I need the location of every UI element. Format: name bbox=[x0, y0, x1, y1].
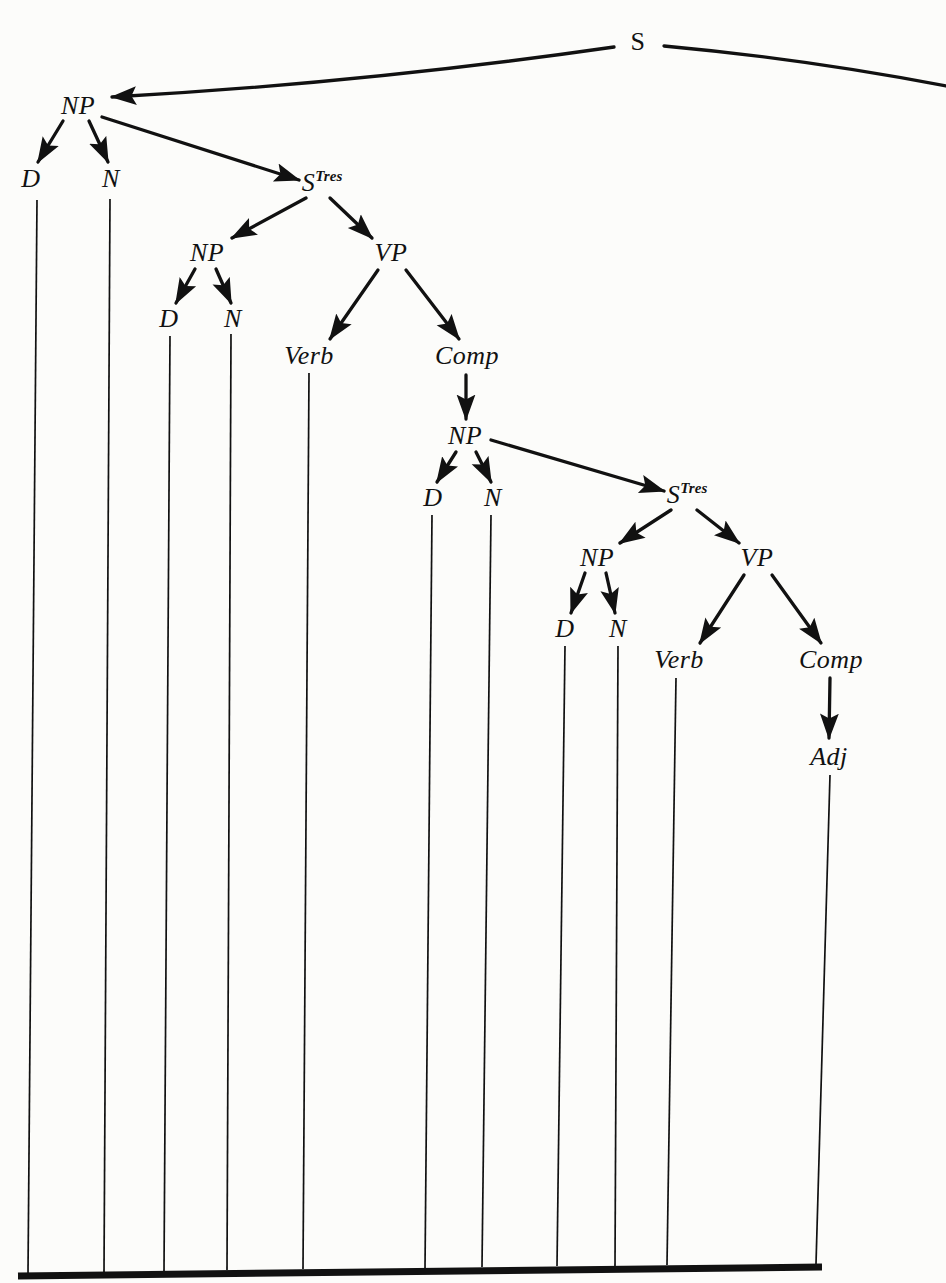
node-label-text: N bbox=[102, 164, 120, 193]
node-label-text: N bbox=[224, 304, 242, 333]
tree-node-n-3: N bbox=[484, 485, 502, 511]
node-label-text: S bbox=[667, 480, 681, 509]
tree-node-verb-1: Verb bbox=[284, 343, 334, 369]
node-label-text: D bbox=[21, 164, 40, 193]
leaf-line bbox=[164, 336, 170, 1271]
tree-node-np-2: NP bbox=[190, 240, 224, 266]
leaf-line bbox=[816, 775, 830, 1264]
tree-node-d-4: D bbox=[555, 616, 574, 642]
tree-arrow bbox=[216, 269, 231, 303]
tree-node-comp-2: Comp bbox=[799, 647, 863, 673]
tree-node-s-root: S bbox=[631, 29, 646, 55]
leaf-line bbox=[667, 678, 676, 1265]
tree-arrow bbox=[476, 452, 491, 482]
tree-node-d-2: D bbox=[159, 306, 178, 332]
tree-arrow bbox=[700, 575, 744, 643]
node-superscript: Tres bbox=[315, 168, 342, 184]
tree-arrow bbox=[176, 269, 195, 303]
node-label-text: S bbox=[631, 27, 646, 56]
leaf-line bbox=[482, 515, 491, 1267]
tree-node-np-4: NP bbox=[580, 545, 614, 571]
tree-node-n-2: N bbox=[224, 306, 242, 332]
tree-node-verb-2: Verb bbox=[654, 647, 704, 673]
tree-arrow bbox=[664, 46, 946, 86]
node-label-text: Comp bbox=[435, 341, 499, 370]
terminal-baseline bbox=[18, 1267, 822, 1276]
leaf-line bbox=[28, 200, 37, 1274]
tree-arrow bbox=[102, 117, 299, 180]
node-label-text: Verb bbox=[284, 341, 334, 370]
tree-arrow bbox=[330, 270, 378, 339]
tree-edges-layer bbox=[0, 0, 946, 1283]
tree-node-stres-2: STres bbox=[667, 482, 708, 508]
tree-arrow bbox=[772, 575, 821, 643]
node-label-text: VP bbox=[741, 543, 774, 572]
tree-node-n-1: N bbox=[102, 166, 120, 192]
tree-arrow bbox=[112, 47, 614, 97]
tree-arrow bbox=[606, 573, 615, 613]
node-label-text: S bbox=[302, 168, 316, 197]
node-label-text: Comp bbox=[799, 645, 863, 674]
tree-node-vp-2: VP bbox=[741, 545, 774, 571]
node-superscript: Tres bbox=[680, 480, 707, 496]
tree-arrow bbox=[89, 121, 108, 162]
tree-node-stres-1: STres bbox=[302, 170, 343, 196]
node-label-text: NP bbox=[448, 421, 482, 450]
leaf-line bbox=[303, 373, 309, 1269]
tree-arrow bbox=[491, 440, 664, 491]
baseline-rule bbox=[18, 1267, 822, 1276]
leaf-line bbox=[557, 646, 565, 1266]
tree-node-adj-1: Adj bbox=[810, 744, 848, 770]
leaf-line bbox=[104, 199, 110, 1272]
tree-node-comp-1: Comp bbox=[435, 343, 499, 369]
tree-arrow bbox=[38, 121, 63, 162]
node-label-text: N bbox=[609, 614, 627, 643]
leaf-line bbox=[227, 334, 231, 1270]
tree-node-n-4: N bbox=[609, 616, 627, 642]
tree-arrows bbox=[38, 46, 946, 738]
node-label-text: NP bbox=[61, 91, 95, 120]
tree-node-vp-1: VP bbox=[375, 240, 408, 266]
node-label-text: D bbox=[555, 614, 574, 643]
tree-node-d-1: D bbox=[21, 166, 40, 192]
tree-node-np-1: NP bbox=[61, 93, 95, 119]
node-label-text: N bbox=[484, 483, 502, 512]
tree-arrow bbox=[697, 510, 739, 543]
leaf-descent-lines bbox=[28, 199, 830, 1274]
node-label-text: VP bbox=[375, 238, 408, 267]
tree-arrow bbox=[330, 198, 372, 238]
tree-arrow bbox=[437, 452, 456, 482]
tree-node-np-3: NP bbox=[448, 423, 482, 449]
tree-arrow bbox=[571, 573, 585, 613]
node-label-text: Adj bbox=[810, 742, 848, 771]
tree-arrow bbox=[232, 198, 306, 238]
tree-node-d-3: D bbox=[423, 485, 442, 511]
tree-arrow bbox=[406, 270, 459, 339]
node-label-text: NP bbox=[580, 543, 614, 572]
node-label-text: D bbox=[423, 483, 442, 512]
node-label-text: NP bbox=[190, 238, 224, 267]
node-label-text: D bbox=[159, 304, 178, 333]
tree-arrow bbox=[620, 510, 671, 543]
leaf-line bbox=[425, 515, 432, 1268]
leaf-line bbox=[615, 646, 618, 1266]
node-label-text: Verb bbox=[654, 645, 704, 674]
syntax-tree-figure: SNPDNSTresNPVPDNVerbCompNPDNSTresNPVPDNV… bbox=[0, 0, 946, 1283]
tree-arrow bbox=[829, 678, 830, 738]
